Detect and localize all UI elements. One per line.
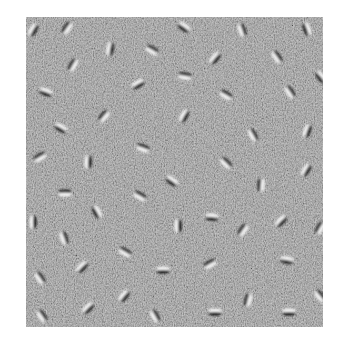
gabor-stimulus-image <box>26 17 323 327</box>
noise-field <box>26 17 323 327</box>
